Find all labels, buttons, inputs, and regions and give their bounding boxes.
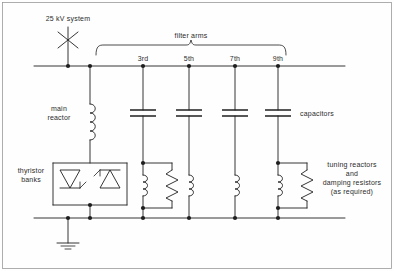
single-line-diagram: .w{stroke:#1f1f1f;stroke-width:0.9;fill:… — [0, 0, 394, 271]
main-reactor-label: main reactor — [33, 104, 85, 122]
source-disconnect-symbol — [58, 27, 78, 66]
node-thyristor-bottom — [88, 203, 92, 207]
filter-arm-label-9th: 9th — [265, 54, 291, 63]
thyristor-banks-label: thyristor banks — [5, 166, 57, 184]
source-label: 25 kV system — [26, 14, 110, 23]
tcr-branch — [53, 64, 127, 220]
filter-arm-7th — [222, 64, 248, 220]
thyristor-right-symbol — [94, 170, 120, 188]
node-source-bus — [66, 64, 70, 68]
filter-arm-3rd — [130, 64, 178, 220]
ground-symbol — [57, 216, 79, 249]
diagram-border — [3, 3, 392, 269]
filter-arm-5th — [176, 64, 202, 220]
thyristor-left-symbol — [60, 170, 86, 188]
filter-arm-label-5th: 5th — [176, 54, 202, 63]
diagram-canvas: .w{stroke:#1f1f1f;stroke-width:0.9;fill:… — [0, 0, 394, 271]
capacitors-label: capacitors — [300, 109, 370, 118]
filter-arm-label-3rd: 3rd — [130, 54, 156, 63]
tuning-damping-label: tuning reactors and damping resistors (a… — [313, 160, 391, 196]
filter-arm-label-7th: 7th — [222, 54, 248, 63]
filter-arms-brace — [96, 40, 286, 55]
filter-arm-9th — [265, 64, 313, 220]
filter-arms-label: filter arms — [151, 31, 231, 40]
